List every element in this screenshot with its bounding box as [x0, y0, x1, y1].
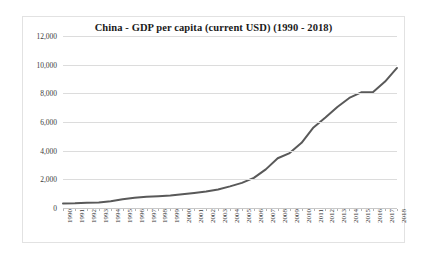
- x-tick-label: 2002: [209, 209, 217, 223]
- x-tick-label: 2014: [352, 209, 360, 223]
- x-tick-label: 1994: [114, 209, 122, 223]
- gridline-12000: [63, 36, 397, 37]
- x-tick-label: 2013: [340, 209, 348, 223]
- x-tick-mark: [385, 209, 386, 211]
- gridline-2000: [63, 179, 397, 180]
- x-tick-label: 2003: [221, 209, 229, 223]
- x-tick-mark: [147, 209, 148, 211]
- x-tick-mark: [182, 209, 183, 211]
- x-tick-label: 2005: [245, 209, 253, 223]
- x-tick-label: 2016: [376, 209, 384, 223]
- x-tick-mark: [218, 209, 219, 211]
- x-tick-label: 1993: [102, 209, 110, 223]
- x-tick-label: 2008: [281, 209, 289, 223]
- x-tick-label: 1999: [173, 209, 181, 223]
- x-tick-mark: [337, 209, 338, 211]
- x-tick-label: 1997: [150, 209, 158, 223]
- y-tick-label: 6,000: [40, 118, 57, 127]
- y-tick-label: 8,000: [40, 89, 57, 98]
- x-tick-label: 2001: [197, 209, 205, 223]
- chart-title: China - GDP per capita (current USD) (19…: [23, 22, 404, 33]
- gridline-10000: [63, 65, 397, 66]
- x-tick-mark: [170, 209, 171, 211]
- x-tick-label: 1996: [138, 209, 146, 223]
- y-tick-label: 4,000: [40, 146, 57, 155]
- x-tick-mark: [194, 209, 195, 211]
- x-tick-label: 1991: [78, 209, 86, 223]
- x-tick-mark: [242, 209, 243, 211]
- y-tick-label: 10,000: [36, 60, 57, 69]
- y-tick-label: 0: [53, 204, 57, 213]
- x-tick-mark: [278, 209, 279, 211]
- x-tick-mark: [254, 209, 255, 211]
- y-tick-label: 12,000: [36, 32, 57, 41]
- x-tick-mark: [135, 209, 136, 211]
- plot-area: [63, 36, 397, 208]
- x-axis-tick-labels: 1990199119921993199419951996199719981999…: [63, 209, 397, 243]
- x-tick-mark: [361, 209, 362, 211]
- x-tick-label: 2007: [269, 209, 277, 223]
- x-tick-mark: [314, 209, 315, 211]
- x-tick-mark: [123, 209, 124, 211]
- chart-figure: China - GDP per capita (current USD) (19…: [22, 16, 405, 243]
- x-tick-mark: [111, 209, 112, 211]
- series-line: [63, 68, 397, 203]
- gridline-4000: [63, 151, 397, 152]
- x-tick-mark: [397, 209, 398, 211]
- x-tick-label: 2018: [400, 209, 408, 223]
- y-tick-label: 2,000: [40, 175, 57, 184]
- x-tick-label: 2009: [293, 209, 301, 223]
- gridline-8000: [63, 93, 397, 94]
- x-tick-label: 1990: [66, 209, 74, 223]
- x-tick-mark: [349, 209, 350, 211]
- x-tick-mark: [290, 209, 291, 211]
- x-tick-mark: [266, 209, 267, 211]
- x-tick-label: 2012: [328, 209, 336, 223]
- x-tick-mark: [206, 209, 207, 211]
- x-tick-mark: [99, 209, 100, 211]
- x-tick-mark: [230, 209, 231, 211]
- x-tick-label: 1992: [90, 209, 98, 223]
- x-tick-label: 1998: [161, 209, 169, 223]
- x-tick-label: 2004: [233, 209, 241, 223]
- x-tick-mark: [302, 209, 303, 211]
- x-tick-mark: [325, 209, 326, 211]
- x-tick-label: 2010: [305, 209, 313, 223]
- y-axis-tick-labels: 02,0004,0006,0008,00010,00012,000: [23, 36, 61, 208]
- gridline-6000: [63, 122, 397, 123]
- x-tick-label: 2006: [257, 209, 265, 223]
- x-tick-label: 2015: [364, 209, 372, 223]
- x-tick-mark: [87, 209, 88, 211]
- x-tick-mark: [75, 209, 76, 211]
- x-tick-mark: [63, 209, 64, 211]
- x-tick-label: 2017: [388, 209, 396, 223]
- x-tick-label: 2000: [185, 209, 193, 223]
- x-tick-label: 2011: [317, 209, 325, 223]
- x-tick-label: 1995: [126, 209, 134, 223]
- x-tick-mark: [158, 209, 159, 211]
- x-tick-mark: [373, 209, 374, 211]
